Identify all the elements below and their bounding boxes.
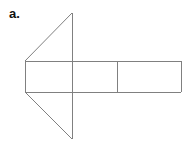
triangle-upper-slant-line [25, 13, 72, 61]
triangle-group [25, 13, 73, 139]
figure-container: a. [0, 0, 195, 148]
triangle-lower-slant-line [25, 92, 72, 139]
rectangle-group [25, 61, 182, 93]
geometric-figure-svg [0, 0, 195, 148]
